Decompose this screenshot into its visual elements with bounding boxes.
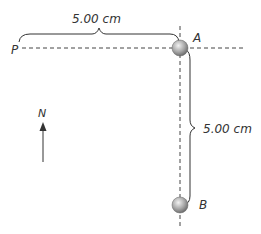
ball-b [172, 197, 188, 213]
diagram-canvas: 5.00 cm P A 5.00 cm B N [0, 0, 261, 234]
point-p-label: P [11, 43, 19, 57]
diagram-svg: 5.00 cm P A 5.00 cm B N [0, 0, 261, 234]
north-arrow-icon [40, 122, 47, 131]
top-distance-label: 5.00 cm [72, 12, 121, 26]
ball-b-label: B [199, 198, 207, 212]
side-brace [183, 50, 195, 205]
top-brace [19, 28, 179, 42]
ball-a [172, 40, 188, 56]
ball-a-label: A [192, 31, 201, 45]
north-label: N [38, 107, 46, 120]
side-distance-label: 5.00 cm [203, 122, 252, 136]
